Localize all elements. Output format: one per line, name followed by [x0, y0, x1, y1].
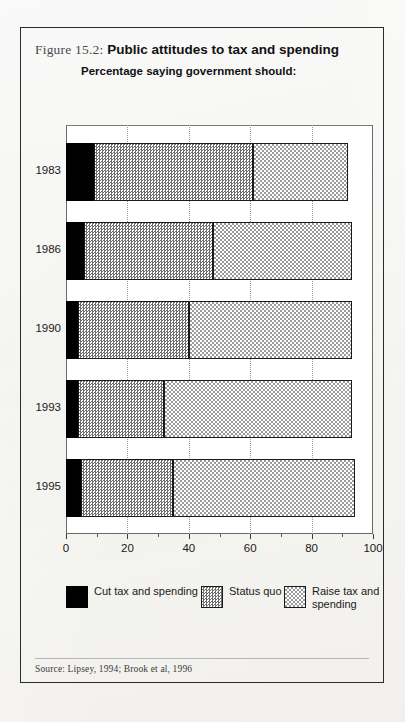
axis-tick-minor	[220, 534, 221, 537]
axis-tick-label: 100	[363, 542, 382, 554]
axis-tick-label: 0	[63, 542, 69, 554]
bar-row	[66, 143, 373, 201]
chart-plot-area: 19831986199019931995 020406080100	[66, 125, 373, 534]
legend-item-raise: Raise tax and spending	[284, 585, 386, 611]
bar-segment-status	[78, 301, 189, 359]
axis-tick	[189, 534, 190, 539]
category-label: 1993	[1, 401, 61, 413]
bar-segment-cut	[66, 459, 81, 517]
figure-header: Figure 15.2: Public attitudes to tax and…	[35, 42, 373, 77]
figure-panel: Figure 15.2: Public attitudes to tax and…	[20, 27, 384, 683]
axis-tick-minor	[342, 534, 343, 537]
legend-label-cut: Cut tax and spending	[94, 585, 198, 598]
bar-segment-raise	[164, 380, 351, 438]
bar-segment-cut	[66, 222, 84, 280]
category-label: 1983	[1, 164, 61, 176]
chart-legend: Cut tax and spendingStatus quoRaise tax …	[66, 585, 386, 627]
axis-tick-label: 20	[121, 542, 134, 554]
bar-row	[66, 222, 373, 280]
axis-tick	[250, 534, 251, 539]
bar-segment-raise	[253, 143, 348, 201]
legend-item-cut: Cut tax and spending	[66, 585, 198, 608]
axis-tick-label: 40	[182, 542, 195, 554]
axis-tick	[373, 534, 374, 539]
legend-swatch-status	[201, 586, 223, 608]
legend-swatch-raise	[284, 586, 306, 608]
bar-segment-cut	[66, 380, 78, 438]
legend-label-status: Status quo	[229, 585, 282, 598]
bar-segment-status	[78, 380, 164, 438]
category-label: 1986	[1, 243, 61, 255]
bar-segment-raise	[213, 222, 351, 280]
bar-row	[66, 380, 373, 438]
bar-segment-raise	[173, 459, 354, 517]
axis-tick-minor	[158, 534, 159, 537]
bar-segment-cut	[66, 143, 94, 201]
source-divider	[35, 658, 369, 659]
bar-series	[66, 125, 373, 534]
bar-segment-status	[84, 222, 213, 280]
category-label: 1995	[1, 480, 61, 492]
axis-tick	[127, 534, 128, 539]
figure-number: Figure 15.2:	[35, 42, 103, 57]
bar-segment-status	[81, 459, 173, 517]
bar-segment-cut	[66, 301, 78, 359]
legend-swatch-cut	[66, 586, 88, 608]
bar-row	[66, 301, 373, 359]
category-label: 1990	[1, 322, 61, 334]
figure-subtitle: Percentage saying government should:	[81, 65, 373, 77]
axis-tick-label: 60	[244, 542, 257, 554]
axis-tick	[66, 534, 67, 539]
axis-tick-minor	[281, 534, 282, 537]
legend-item-status: Status quo	[201, 585, 282, 608]
bar-segment-raise	[189, 301, 352, 359]
source-note: Source: Lipsey, 1994; Brook et al, 1996	[35, 664, 192, 674]
bar-segment-status	[94, 143, 254, 201]
legend-label-raise: Raise tax and spending	[312, 585, 386, 611]
source-text: Source: Lipsey, 1994; Brook et al, 1996	[35, 664, 192, 674]
figure-title-line: Figure 15.2: Public attitudes to tax and…	[35, 42, 373, 58]
axis-tick-minor	[97, 534, 98, 537]
axis-tick-label: 80	[305, 542, 318, 554]
value-axis-ticks	[66, 534, 373, 540]
figure-title: Public attitudes to tax and spending	[107, 42, 339, 57]
bar-row	[66, 459, 373, 517]
axis-tick	[312, 534, 313, 539]
